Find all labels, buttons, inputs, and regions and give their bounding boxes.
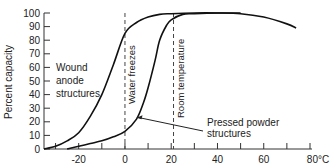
x-tick-label: 60 (258, 154, 270, 165)
y-axis-label: Percent capacity (3, 45, 14, 119)
wound-anode-label: Wound (56, 62, 88, 73)
x-tick-label: -20 (71, 154, 86, 165)
x-tick-label: 40 (212, 154, 224, 165)
y-tick-label: 0 (34, 144, 40, 155)
reference-line-label: Room temperature (175, 39, 186, 118)
y-tick-label: 80 (29, 35, 41, 46)
wound-anode-label: structures (56, 88, 100, 99)
x-tick-label: 0 (122, 154, 128, 165)
pressed-powder-label: Pressed powder (207, 117, 280, 128)
annotation-arrow-line (140, 118, 203, 131)
wound-anode-label: anode (56, 75, 84, 86)
labels: WoundanodestructuresPressed powderstruct… (56, 62, 280, 139)
reference-line-label: Water freezes (126, 45, 137, 104)
y-tick-label: 60 (29, 62, 41, 73)
capacity-temperature-chart: 0102030405060708090100-20020406080°C Wat… (0, 0, 334, 168)
chart-container: 0102030405060708090100-20020406080°C Wat… (0, 0, 334, 168)
y-tick-label: 20 (29, 116, 41, 127)
y-tick-label: 100 (23, 8, 40, 19)
y-tick-label: 10 (29, 130, 41, 141)
y-tick-label: 70 (29, 48, 41, 59)
reference-lines: Water freezesRoom temperature (125, 13, 186, 149)
x-tick-label: 20 (166, 154, 178, 165)
y-tick-label: 30 (29, 103, 41, 114)
pressed-powder-label: structures (207, 128, 251, 139)
y-tick-label: 90 (29, 21, 41, 32)
x-tick-label: 80°C (307, 154, 329, 165)
y-tick-label: 50 (29, 76, 41, 87)
y-tick-label: 40 (29, 89, 41, 100)
